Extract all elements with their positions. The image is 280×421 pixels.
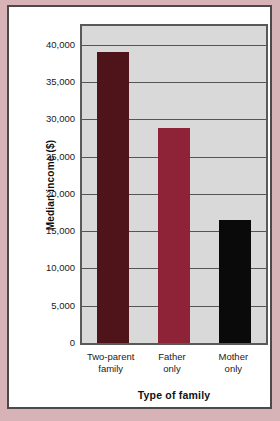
y-axis-ticks: 05,00010,00015,00020,00025,00030,00035,0… — [9, 24, 75, 345]
x-axis-category-line: only — [141, 363, 202, 375]
y-axis-tick-label: 35,000 — [13, 77, 75, 87]
bar-3 — [219, 220, 251, 343]
y-axis-tick-label: 20,000 — [13, 189, 75, 199]
gridline — [82, 45, 266, 46]
plot-area — [80, 24, 268, 345]
x-axis-category-line: family — [80, 363, 141, 375]
x-axis-category-line: Father — [141, 351, 202, 363]
x-axis-category-labels: Two-parentfamilyFatheronlyMotheronly — [80, 351, 268, 385]
bar-2 — [158, 128, 190, 343]
y-axis-tick-label: 15,000 — [13, 226, 75, 236]
x-axis-category-line: Mother — [203, 351, 264, 363]
x-axis-category-line: Two-parent — [80, 351, 141, 363]
bar-1 — [97, 52, 129, 343]
y-axis-tick-label: 0 — [13, 338, 75, 348]
x-axis-category-label: Two-parentfamily — [80, 351, 141, 374]
y-axis-tick-label: 30,000 — [13, 114, 75, 124]
x-axis-category-label: Fatheronly — [141, 351, 202, 374]
y-axis-tick-label: 10,000 — [13, 264, 75, 274]
x-axis-title: Type of family — [80, 389, 268, 401]
y-axis-tick-label: 5,000 — [13, 301, 75, 311]
plot-inner — [82, 26, 266, 343]
chart-card: Median income ($) 05,00010,00015,00020,0… — [7, 5, 272, 409]
y-axis-tick-label: 40,000 — [13, 40, 75, 50]
y-axis-tick-label: 25,000 — [13, 152, 75, 162]
x-axis-category-label: Motheronly — [203, 351, 264, 374]
bar-chart: Median income ($) 05,00010,00015,00020,0… — [9, 7, 270, 407]
x-axis-category-line: only — [203, 363, 264, 375]
